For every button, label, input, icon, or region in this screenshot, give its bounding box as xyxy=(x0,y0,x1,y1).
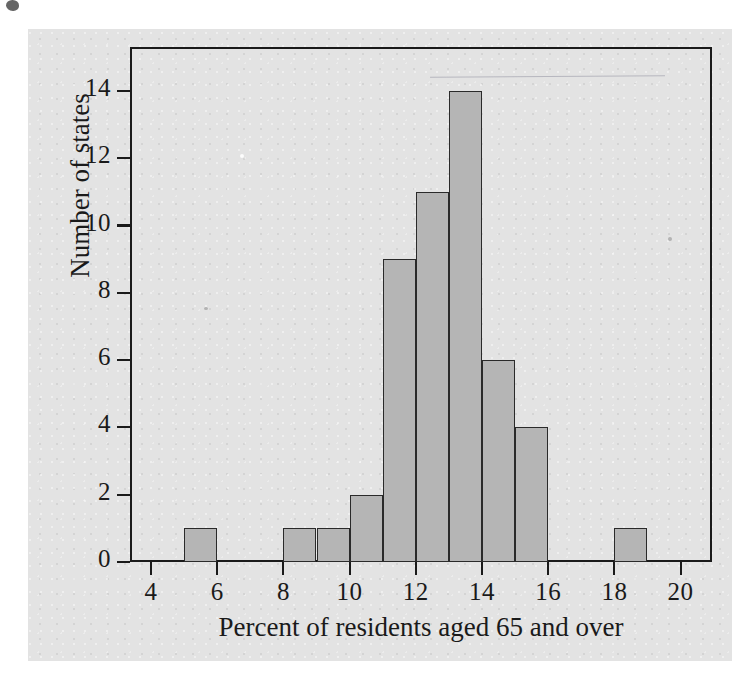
y-axis-label: Number of states xyxy=(65,93,95,277)
histogram-bar xyxy=(482,360,515,562)
y-tick-mark xyxy=(117,494,130,496)
y-tick-mark xyxy=(117,90,130,92)
x-tick-label: 8 xyxy=(253,578,313,606)
histogram-bar xyxy=(614,528,647,562)
histogram-bar xyxy=(449,91,482,562)
y-tick-mark xyxy=(117,292,130,294)
histogram-bar xyxy=(416,192,449,562)
histogram-bar xyxy=(383,259,416,562)
y-tick-mark xyxy=(117,426,130,428)
x-axis-label: Percent of residents aged 65 and over xyxy=(130,612,712,643)
histogram-bar xyxy=(283,528,316,562)
y-tick-mark xyxy=(117,224,130,226)
y-tick-label: 4 xyxy=(57,410,111,438)
y-tick-mark xyxy=(117,561,130,563)
histogram-bars xyxy=(130,47,712,562)
y-tick-mark xyxy=(117,157,130,159)
x-tick-label: 4 xyxy=(121,578,181,606)
histogram-bar xyxy=(515,427,548,562)
y-tick-label: 0 xyxy=(57,545,111,573)
x-tick-mark xyxy=(349,562,351,575)
x-tick-label: 16 xyxy=(518,578,578,606)
x-tick-mark xyxy=(547,562,549,575)
x-tick-mark xyxy=(415,562,417,575)
y-axis-label-wrapper: Number of states xyxy=(65,46,96,326)
x-tick-label: 12 xyxy=(386,578,446,606)
x-tick-mark xyxy=(282,562,284,575)
y-tick-mark xyxy=(117,359,130,361)
x-tick-label: 6 xyxy=(187,578,247,606)
x-tick-label: 18 xyxy=(584,578,644,606)
x-tick-mark xyxy=(680,562,682,575)
x-tick-mark xyxy=(613,562,615,575)
y-tick-label: 6 xyxy=(57,343,111,371)
x-tick-label: 20 xyxy=(651,578,711,606)
y-tick-label: 2 xyxy=(57,478,111,506)
x-tick-mark xyxy=(216,562,218,575)
histogram-bar xyxy=(317,528,350,562)
x-tick-label: 10 xyxy=(320,578,380,606)
print-smudge xyxy=(6,0,19,11)
histogram-bar xyxy=(350,495,383,562)
x-tick-label: 14 xyxy=(452,578,512,606)
x-tick-mark xyxy=(150,562,152,575)
histogram-bar xyxy=(184,528,217,562)
x-tick-mark xyxy=(481,562,483,575)
